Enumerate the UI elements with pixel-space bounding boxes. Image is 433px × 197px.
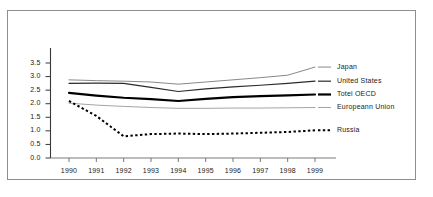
x-axis-tick-label: 1998	[275, 167, 301, 174]
y-axis-tick-label: 0.0	[17, 154, 41, 161]
legend-label-totel-oecd: Totel OECD	[337, 90, 376, 97]
y-axis-tick-label: 1.0	[17, 126, 41, 133]
x-axis-tick-label: 1993	[138, 167, 164, 174]
legend-label-russia: Russia	[337, 126, 360, 133]
y-axis-tick-label: 2.0	[17, 99, 41, 106]
series-line-europeann-union	[69, 103, 315, 108]
x-axis-tick-label: 1997	[247, 167, 273, 174]
legend-label-united-states: United States	[337, 77, 382, 84]
series-line-japan	[69, 67, 315, 84]
y-axis-tick-label: 3.5	[17, 59, 41, 66]
x-axis-tick-label: 1992	[111, 167, 137, 174]
legend-label-europeann-union: Europeann Union	[337, 103, 395, 110]
series-line-totel-oecd	[69, 93, 315, 101]
x-axis-tick-label: 1995	[193, 167, 219, 174]
legend-label-japan: Japan	[337, 63, 357, 70]
x-axis-tick-label: 1994	[165, 167, 191, 174]
x-axis-tick-label: 1996	[220, 167, 246, 174]
y-axis-tick-label: 3.0	[17, 72, 41, 79]
x-axis-tick-label: 1990	[56, 167, 82, 174]
y-axis-tick-label: 2.5	[17, 86, 41, 93]
x-axis-tick-label: 1999	[302, 167, 328, 174]
x-axis-tick-label: 1991	[83, 167, 109, 174]
y-axis-tick-label: 0.5	[17, 140, 41, 147]
chart-figure: 0.00.51.01.52.02.53.03.51990199119921993…	[0, 0, 433, 197]
series-line-russia	[69, 101, 315, 136]
y-axis-tick-label: 1.5	[17, 113, 41, 120]
